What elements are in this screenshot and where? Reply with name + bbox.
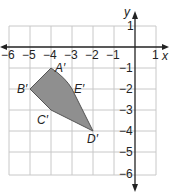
y-axis-down-arrow-icon: [132, 184, 138, 192]
y-tick-label: 1: [127, 19, 134, 33]
y-axis: [132, 11, 138, 192]
vertex-label-e: E′: [74, 82, 85, 96]
vertex-label-c: C′: [37, 113, 49, 127]
y-axis-up-arrow-icon: [132, 11, 138, 19]
x-tick-label: −3: [64, 48, 78, 62]
x-tick-label: −6: [1, 48, 15, 62]
vertex-label-b: B′: [17, 82, 28, 96]
x-axis-label: x: [161, 49, 169, 63]
y-tick-label: −1: [119, 61, 133, 75]
x-tick-label: −4: [43, 48, 57, 62]
y-tick-label: −6: [119, 167, 133, 181]
x-tick-label: −5: [22, 48, 36, 62]
x-tick-label: 1: [152, 48, 159, 62]
y-tick-label: −4: [119, 124, 133, 138]
y-tick-label: −3: [119, 103, 133, 117]
y-tick-label: −5: [119, 145, 133, 159]
vertex-label-a: A′: [54, 61, 66, 75]
vertex-label-d: D′: [87, 132, 99, 146]
x-tick-label: −2: [85, 48, 99, 62]
x-tick-label: −1: [106, 48, 120, 62]
y-axis-label: y: [123, 5, 131, 19]
coordinate-plane: −6 −5 −4 −3 −2 −1 1 x y 1 −1 −2 −3 −4 −5…: [0, 0, 172, 194]
y-tick-label: −2: [119, 82, 133, 96]
